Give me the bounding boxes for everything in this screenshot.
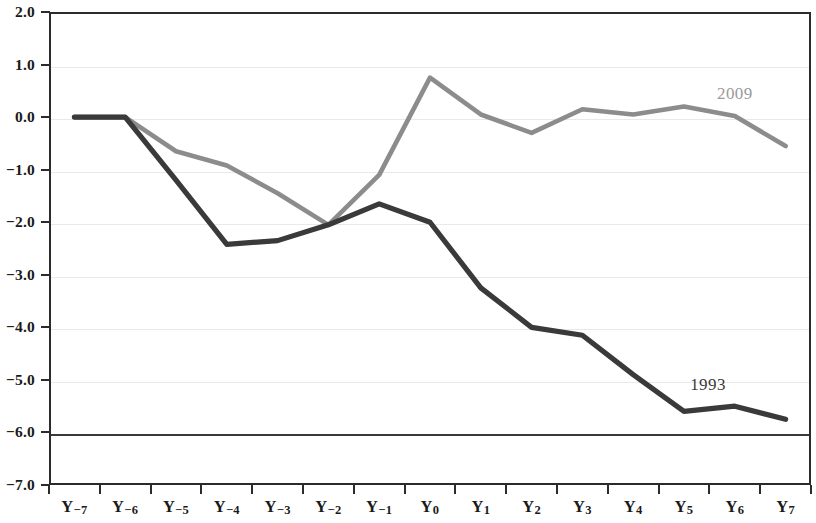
x-tick-label: Y6 [725,497,744,518]
x-tick-mark [556,485,558,494]
x-tick-label: Y−3 [264,497,290,518]
x-tick-label: Y0 [421,497,440,518]
x-tick-mark-origin [48,485,50,494]
plot-area [49,12,811,485]
x-tick-label: Y−5 [163,497,189,518]
x-tick-mark [810,485,812,494]
y-tick-mark [41,116,50,118]
y-tick-mark [41,274,50,276]
gridline--4 [51,329,809,330]
gridline--6 [51,434,809,436]
x-tick-label: Y5 [675,497,694,518]
x-tick-label: Y−4 [214,497,240,518]
x-axis: Y−7Y−6Y−5Y−4Y−3Y−2Y−1Y0Y1Y2Y3Y4Y5Y6Y7 [0,485,816,523]
x-tick-label: Y−6 [112,497,138,518]
x-tick-mark [353,485,355,494]
x-tick-mark [302,485,304,494]
x-tick-mark [658,485,660,494]
series-label-1993: 1993 [690,375,726,395]
y-tick-label: −2.0 [6,213,35,231]
gridline--3 [51,277,809,278]
y-tick-mark [41,169,50,171]
x-tick-label: Y2 [522,497,541,518]
y-tick-label: −3.0 [6,266,35,284]
y-tick-label: −5.0 [6,371,35,389]
y-tick-mark [41,64,50,66]
x-tick-label: Y−1 [366,497,392,518]
x-tick-mark [505,485,507,494]
x-tick-mark [404,485,406,494]
y-axis: 2.01.00.0−1.0−2.0−3.0−4.0−5.0−6.0−7.0 [0,0,49,523]
x-tick-label: Y7 [776,497,795,518]
y-tick-label: −4.0 [6,318,35,336]
gridline-1 [51,67,809,68]
y-tick-mark [41,11,50,13]
y-tick-label: −1.0 [6,161,35,179]
gridline--2 [51,224,809,225]
chart-root: 2.01.00.0−1.0−2.0−3.0−4.0−5.0−6.0−7.0 20… [0,0,816,523]
x-tick-mark [150,485,152,494]
y-tick-mark [41,379,50,381]
x-tick-mark [708,485,710,494]
x-tick-mark [607,485,609,494]
series-label-2009: 2009 [717,84,753,104]
x-tick-mark [99,485,101,494]
x-tick-mark [251,485,253,494]
y-tick-mark [41,326,50,328]
y-tick-label: 2.0 [15,3,35,21]
x-tick-label: Y3 [573,497,592,518]
gridline--1 [51,172,809,173]
x-tick-label: Y4 [624,497,643,518]
y-tick-mark [41,431,50,433]
y-tick-mark [41,221,50,223]
gridline-0 [51,119,809,120]
y-tick-label: 0.0 [15,108,35,126]
y-tick-label: −6.0 [6,423,35,441]
x-tick-label: Y−7 [61,497,87,518]
y-tick-label: 1.0 [15,56,35,74]
x-tick-mark [200,485,202,494]
x-tick-label: Y−2 [315,497,341,518]
x-tick-label: Y1 [471,497,490,518]
x-tick-mark [454,485,456,494]
x-tick-mark [759,485,761,494]
